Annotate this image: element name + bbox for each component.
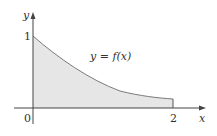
- area-under-curve-diagram: y 1 0 2 x y = f(x): [0, 0, 217, 136]
- x-tick-label: 2: [170, 112, 177, 125]
- y-axis-label: y: [22, 9, 30, 22]
- x-axis-arrow-icon: [199, 106, 206, 111]
- y-tick-label: 1: [24, 30, 31, 43]
- origin-label: 0: [24, 112, 31, 125]
- y-axis-arrow-icon: [31, 12, 36, 19]
- x-axis-label: x: [199, 112, 206, 125]
- curve-label: y = f(x): [89, 50, 131, 63]
